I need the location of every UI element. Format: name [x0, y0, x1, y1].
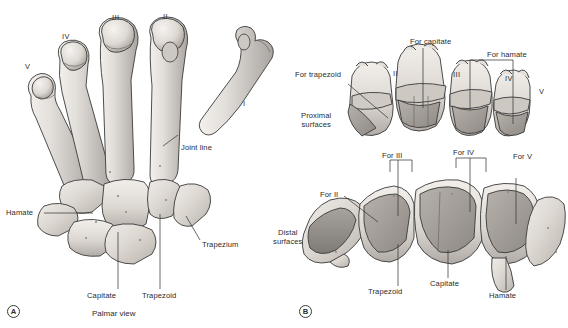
label-for-iv: For IV: [453, 148, 474, 157]
label-distal-surfaces: Distal surfaces: [273, 228, 303, 246]
figure-canvas: V IV III II I Joint line Hamate Capitate…: [0, 0, 568, 328]
label-base-ii: II: [393, 69, 398, 78]
label-trapezoid-b: Trapezoid: [368, 287, 402, 296]
metacarpal-ii: [150, 17, 188, 185]
base-iii-proximal: [396, 44, 446, 131]
label-for-capitate: For capitate: [410, 37, 451, 46]
label-hamate-b: Hamate: [489, 291, 516, 300]
panel-b-distal-artwork: [302, 180, 565, 293]
label-base-iii: III: [453, 70, 460, 79]
label-capitate-b: Capitate: [430, 279, 459, 288]
label-for-iii: For III: [382, 151, 403, 160]
label-metacarpal-ii: II: [163, 12, 168, 21]
label-metacarpal-i: I: [243, 99, 245, 108]
label-trapezium-a: Trapezium: [202, 240, 239, 249]
label-proximal-surfaces: Proximal surfaces: [301, 111, 331, 129]
label-for-v: For V: [513, 152, 532, 161]
label-for-trapezoid: For trapezoid: [295, 70, 341, 79]
panel-marker-b: B: [299, 305, 312, 318]
metacarpal-i: [199, 26, 273, 135]
label-metacarpal-iii: III: [112, 13, 119, 22]
panel-marker-a: A: [7, 305, 20, 318]
label-metacarpal-v: V: [25, 62, 30, 71]
base-ii-proximal: [348, 62, 393, 136]
label-for-hamate: For hamate: [487, 50, 527, 59]
anatomical-illustration: [0, 0, 568, 328]
label-joint-line: Joint line: [181, 143, 212, 152]
label-hamate-a: Hamate: [6, 208, 33, 217]
label-base-iv: IV: [505, 74, 513, 83]
label-trapezoid-a: Trapezoid: [142, 291, 176, 300]
label-base-v: V: [539, 87, 544, 96]
label-metacarpal-iv: IV: [62, 32, 70, 41]
label-for-ii: For II: [320, 190, 338, 199]
panel-a-caption: Palmar view: [92, 309, 136, 318]
label-capitate-a: Capitate: [87, 291, 116, 300]
panel-a-artwork: [28, 17, 273, 264]
